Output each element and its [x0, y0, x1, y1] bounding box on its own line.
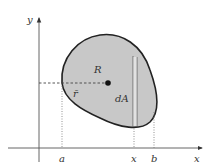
tick-label-x: x: [131, 153, 137, 164]
strip-da: [133, 56, 137, 127]
centroid-point: [105, 80, 111, 86]
region-label: R: [93, 64, 102, 75]
centroid-diagram: y x R r̄ dA a x b: [0, 0, 210, 168]
strip-label: dA: [115, 93, 129, 104]
tick-label-b: b: [151, 153, 157, 164]
tick-label-a: a: [59, 153, 65, 164]
x-axis-label: x: [194, 153, 200, 164]
y-axis-label: y: [26, 14, 33, 25]
